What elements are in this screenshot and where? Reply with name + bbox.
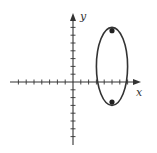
x-axis-arrow-icon	[133, 79, 141, 85]
focus-point	[109, 100, 114, 105]
y-axis-arrow-icon	[70, 13, 76, 21]
y-axis-label: y	[79, 10, 87, 23]
x-axis-label: x	[136, 86, 143, 99]
coordinate-plot: x y	[0, 0, 157, 153]
focus-point	[109, 28, 114, 33]
focus-points	[109, 28, 114, 105]
ellipse-curve	[96, 27, 127, 105]
